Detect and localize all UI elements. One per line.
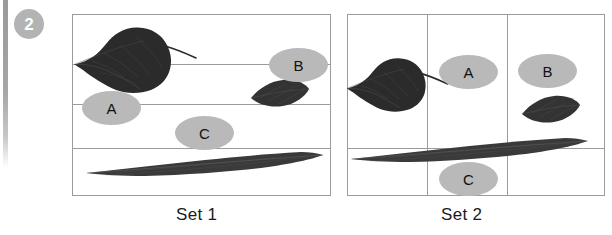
- set2-label-b[interactable]: B: [518, 54, 577, 88]
- set2-long-narrow-leaf: [347, 137, 592, 165]
- set-2-diagram-box: A B C: [347, 14, 605, 196]
- set2-heart-shaped-leaf: [345, 53, 455, 115]
- set1-small-oval-leaf: [249, 78, 311, 108]
- set1-heart-shaped-leaf: [72, 23, 207, 95]
- set2-small-oval-leaf: [520, 94, 582, 124]
- set-1-diagram-box: A B C: [72, 14, 331, 196]
- set-2-caption: Set 2: [441, 205, 482, 225]
- set1-label-b[interactable]: B: [269, 48, 328, 82]
- set-1-caption: Set 1: [176, 205, 217, 225]
- set2-label-c[interactable]: C: [439, 162, 498, 196]
- question-number-badge: 2: [14, 9, 44, 39]
- set1-long-narrow-leaf: [85, 151, 325, 179]
- set1-label-a[interactable]: A: [82, 91, 141, 125]
- left-margin-bar: [3, 0, 8, 168]
- set1-label-c[interactable]: C: [175, 116, 234, 150]
- set2-label-a[interactable]: A: [439, 55, 498, 89]
- set2-divider-col-2: [507, 15, 508, 195]
